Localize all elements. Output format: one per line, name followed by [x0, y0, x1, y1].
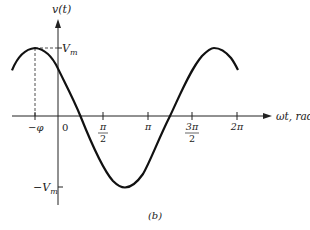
tick-label-pi: π — [144, 121, 152, 132]
y-axis-arrow-icon — [55, 19, 61, 28]
neg-vm-label: −Vm — [33, 181, 58, 196]
tick-label-2pi: 2π — [230, 121, 244, 132]
tick-label-3pi-over-2-num: 3π — [186, 121, 199, 132]
x-axis-label: ωt, rad — [276, 110, 310, 122]
vm-label: Vm — [62, 42, 78, 57]
tick-label-pi-over-2-num: π — [99, 121, 107, 132]
figure-caption: (b) — [148, 210, 162, 221]
y-axis-label: v(t) — [52, 3, 71, 16]
tick-label-pi-over-2-den: 2 — [100, 133, 106, 144]
x-axis-arrow-icon — [263, 113, 272, 119]
sinusoid-curve — [12, 48, 238, 188]
tick-label-3pi-over-2-den: 2 — [189, 133, 195, 144]
tick-label-zero: 0 — [62, 122, 68, 133]
sinusoid-chart: v(t) ωt, rad Vm −Vm −φ 0 π 2 π 3π 2 2π (… — [0, 0, 310, 230]
tick-label-neg-phi: −φ — [28, 122, 43, 133]
